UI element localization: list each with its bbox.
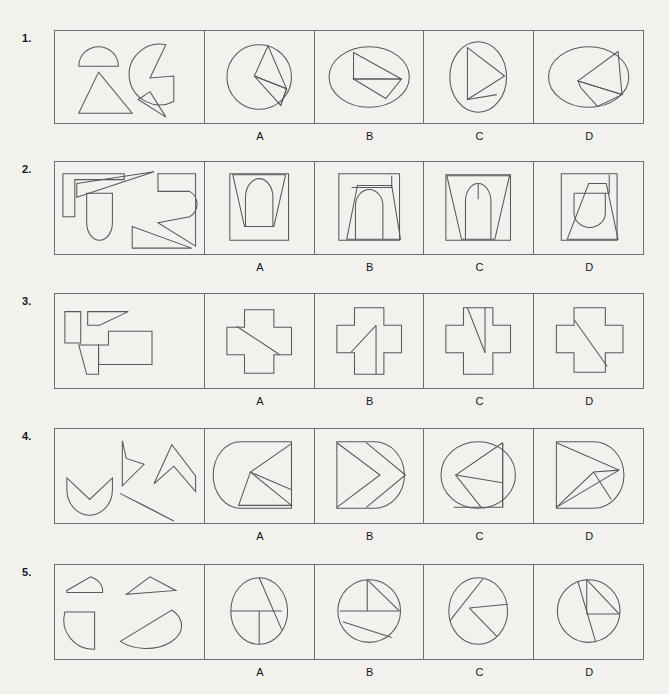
question-grid-3 bbox=[54, 293, 644, 389]
option-cell-4-C[interactable] bbox=[424, 429, 533, 523]
option-cell-5-C[interactable] bbox=[424, 565, 533, 659]
option-cell-3-C[interactable] bbox=[424, 294, 533, 388]
option-cell-2-D[interactable] bbox=[534, 162, 643, 254]
option-cell-5-A[interactable] bbox=[205, 565, 314, 659]
option-cell-3-A[interactable] bbox=[205, 294, 314, 388]
prompt-cell-1 bbox=[55, 31, 205, 123]
option-label-3-A: A bbox=[205, 395, 315, 407]
prompt-cell-5 bbox=[55, 565, 205, 659]
option-cell-2-C[interactable] bbox=[424, 162, 533, 254]
label-spacer bbox=[54, 395, 205, 407]
option-label-2-D: D bbox=[534, 261, 644, 273]
option-cell-4-A[interactable] bbox=[205, 429, 314, 523]
option-cell-4-B[interactable] bbox=[315, 429, 424, 523]
prompt-cell-2 bbox=[55, 162, 205, 254]
question-grid-5 bbox=[54, 564, 644, 660]
question-number-1: 1. bbox=[22, 32, 50, 44]
option-label-1-C: C bbox=[425, 130, 535, 142]
option-label-row-3: A B C D bbox=[54, 395, 644, 407]
option-label-row-1: A B C D bbox=[54, 130, 644, 142]
option-cell-2-A[interactable] bbox=[205, 162, 314, 254]
option-label-1-D: D bbox=[534, 130, 644, 142]
option-label-5-A: A bbox=[205, 666, 315, 678]
option-cell-1-D[interactable] bbox=[534, 31, 643, 123]
label-spacer bbox=[54, 530, 205, 542]
option-cell-1-A[interactable] bbox=[205, 31, 314, 123]
question-grid-4 bbox=[54, 428, 644, 524]
option-label-5-D: D bbox=[534, 666, 644, 678]
option-label-4-B: B bbox=[315, 530, 425, 542]
option-label-3-B: B bbox=[315, 395, 425, 407]
question-number-4: 4. bbox=[22, 430, 50, 442]
label-spacer bbox=[54, 261, 205, 273]
option-cell-2-B[interactable] bbox=[315, 162, 424, 254]
option-cell-5-B[interactable] bbox=[315, 565, 424, 659]
option-label-row-4: A B C D bbox=[54, 530, 644, 542]
option-label-3-D: D bbox=[534, 395, 644, 407]
option-label-5-B: B bbox=[315, 666, 425, 678]
question-number-2: 2. bbox=[22, 163, 50, 175]
option-cell-1-C[interactable] bbox=[424, 31, 533, 123]
prompt-cell-3 bbox=[55, 294, 205, 388]
label-spacer bbox=[54, 666, 205, 678]
option-label-2-A: A bbox=[205, 261, 315, 273]
option-cell-3-D[interactable] bbox=[534, 294, 643, 388]
option-cell-3-B[interactable] bbox=[315, 294, 424, 388]
label-spacer bbox=[54, 130, 205, 142]
test-sheet: 1. bbox=[0, 0, 669, 694]
option-label-row-2: A B C D bbox=[54, 261, 644, 273]
question-number-5: 5. bbox=[22, 566, 50, 578]
option-cell-1-B[interactable] bbox=[315, 31, 424, 123]
option-label-row-5: A B C D bbox=[54, 666, 644, 678]
option-label-2-B: B bbox=[315, 261, 425, 273]
question-grid-1 bbox=[54, 30, 644, 124]
option-cell-5-D[interactable] bbox=[534, 565, 643, 659]
option-label-2-C: C bbox=[425, 261, 535, 273]
option-label-3-C: C bbox=[425, 395, 535, 407]
option-label-1-B: B bbox=[315, 130, 425, 142]
option-label-1-A: A bbox=[205, 130, 315, 142]
option-label-4-C: C bbox=[425, 530, 535, 542]
option-label-4-D: D bbox=[534, 530, 644, 542]
question-number-3: 3. bbox=[22, 295, 50, 307]
option-label-5-C: C bbox=[425, 666, 535, 678]
question-grid-2 bbox=[54, 161, 644, 255]
prompt-cell-4 bbox=[55, 429, 205, 523]
option-cell-4-D[interactable] bbox=[534, 429, 643, 523]
option-label-4-A: A bbox=[205, 530, 315, 542]
